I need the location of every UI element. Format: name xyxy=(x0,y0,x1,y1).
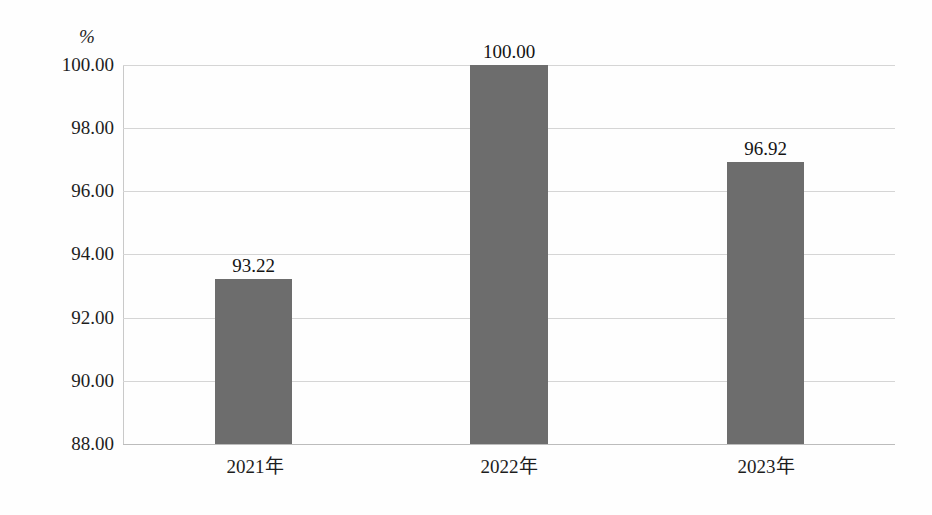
bar-chart: % 100.00 98.00 96.00 94.00 92.00 90.00 8… xyxy=(0,0,932,515)
bars-layer: 93.22 100.00 96.92 xyxy=(123,65,895,444)
x-tick-label-2023: 2023年 xyxy=(686,455,846,479)
y-axis-tick-labels: 100.00 98.00 96.00 94.00 92.00 90.00 88.… xyxy=(8,65,114,445)
y-tick-label: 100.00 xyxy=(18,55,114,74)
y-tick-label: 92.00 xyxy=(18,308,114,327)
bar-group-2021[interactable]: 93.22 xyxy=(215,65,292,444)
bar-value-label-2021: 93.22 xyxy=(232,256,275,276)
bar-2021[interactable] xyxy=(215,279,292,444)
y-tick-label: 94.00 xyxy=(18,244,114,263)
x-axis-baseline xyxy=(123,444,895,445)
y-tick-label: 98.00 xyxy=(18,118,114,137)
y-tick-label: 88.00 xyxy=(18,434,114,453)
bar-2022[interactable] xyxy=(470,65,548,444)
bar-group-2022[interactable]: 100.00 xyxy=(470,65,548,444)
bar-value-label-2022: 100.00 xyxy=(483,42,535,62)
x-tick-label-2022: 2022年 xyxy=(429,455,589,479)
x-tick-label-2021: 2021年 xyxy=(175,455,335,479)
bar-2023[interactable] xyxy=(727,162,804,444)
y-axis-unit-label: % xyxy=(52,26,122,48)
bar-group-2023[interactable]: 96.92 xyxy=(727,65,804,444)
y-tick-label: 90.00 xyxy=(18,371,114,390)
y-tick-label: 96.00 xyxy=(18,181,114,200)
bar-value-label-2023: 96.92 xyxy=(744,139,787,159)
x-axis-category-labels: 2021年 2022年 2023年 xyxy=(123,455,895,495)
